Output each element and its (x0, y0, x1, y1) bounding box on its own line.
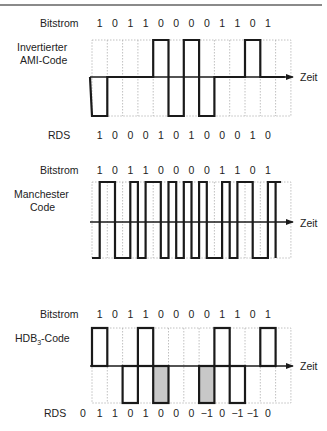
ami-bit-value: 1 (143, 17, 149, 29)
ami-rds-value: 0 (204, 129, 210, 141)
ami-bit-value: 1 (234, 17, 240, 29)
ami-rds-value: 0 (173, 129, 179, 141)
manchester-time-label: Zeit (300, 217, 318, 229)
hdb3-bit-value: 0 (189, 308, 195, 320)
ami-rds-value: 0 (234, 129, 240, 141)
hdb3-pulse (138, 328, 153, 366)
manchester-bit-value: 1 (219, 164, 225, 176)
ami-bit-value: 1 (97, 17, 103, 29)
hdb3-pulse (230, 366, 245, 403)
hdb3-panel: Bitstrom 101100001101 HDB3-Code Zeit RDS… (15, 308, 318, 419)
hdb3-pulse (214, 328, 229, 366)
hdb3-pulse (92, 328, 107, 366)
ami-bit-value: 0 (250, 17, 256, 29)
ami-bit-labels: 101100001101 (97, 17, 271, 29)
hdb3-bit-value: 0 (204, 308, 210, 320)
hdb3-pulse (260, 328, 275, 366)
hdb3-bit-value: 1 (127, 308, 133, 320)
hdb3-violation-pulse (199, 366, 214, 403)
manchester-bit-value: 0 (189, 164, 195, 176)
ami-bit-value: 0 (204, 17, 210, 29)
hdb3-bitstream-label: Bitstrom (40, 308, 79, 320)
hdb3-bit-value: 1 (219, 308, 225, 320)
ami-bit-value: 1 (265, 17, 271, 29)
ami-rds-value: 0 (265, 129, 271, 141)
hdb3-rds-value: −1 (247, 407, 259, 419)
hdb3-bit-value: 1 (143, 308, 149, 320)
hdb3-rds-value: 1 (112, 407, 118, 419)
manchester-bit-value: 0 (204, 164, 210, 176)
hdb3-violation-pulse (153, 366, 168, 403)
ami-rds-value: 0 (143, 129, 149, 141)
manchester-bitstream-label: Bitstrom (40, 164, 79, 176)
ami-panel: Bitstrom 101100001101 Invertierter AMI-C… (17, 17, 318, 141)
hdb3-rds-value: 0 (265, 407, 271, 419)
manchester-bit-value: 1 (143, 164, 149, 176)
hdb3-rds-label: RDS (44, 407, 66, 419)
ami-bitstream-label: Bitstrom (40, 17, 79, 29)
hdb3-code-label: HDB3-Code (15, 332, 70, 346)
hdb3-bit-value: 1 (234, 308, 240, 320)
ami-time-label: Zeit (300, 71, 318, 83)
ami-bit-value: 1 (219, 17, 225, 29)
ami-rds-value: 0 (219, 129, 225, 141)
manchester-bit-value: 0 (158, 164, 164, 176)
ami-rds-value: 1 (158, 129, 164, 141)
hdb3-bit-value: 0 (112, 308, 118, 320)
hdb3-rds-value: 1 (143, 407, 149, 419)
ami-rds-value: 0 (127, 129, 133, 141)
hdb3-bit-value: 0 (250, 308, 256, 320)
ami-rds-value: 1 (97, 129, 103, 141)
hdb3-rds-initial: 0 (80, 407, 86, 419)
manchester-bit-value: 1 (127, 164, 133, 176)
ami-rds-values: 100010100010 (97, 129, 271, 141)
ami-bit-value: 0 (189, 17, 195, 29)
ami-rds-value: 0 (112, 129, 118, 141)
hdb3-rds-value: 1 (97, 407, 103, 419)
hdb3-rds-value: 0 (189, 407, 195, 419)
hdb3-time-label: Zeit (300, 360, 318, 372)
ami-bit-value: 1 (127, 17, 133, 29)
ami-rds-label: RDS (48, 129, 70, 141)
hdb3-bit-value: 1 (97, 308, 103, 320)
hdb3-pulse (123, 366, 138, 403)
hdb3-rds-value: 0 (219, 407, 225, 419)
manchester-label-line1: Manchester (14, 188, 69, 200)
ami-bit-value: 0 (173, 17, 179, 29)
ami-bit-value: 0 (158, 17, 164, 29)
hdb3-bit-value: 0 (173, 308, 179, 320)
hdb3-rds-value: −1 (201, 407, 213, 419)
manchester-bit-value: 0 (173, 164, 179, 176)
hdb3-rds-value: 0 (173, 407, 179, 419)
manchester-bit-value: 0 (250, 164, 256, 176)
hdb3-rds-value: −1 (231, 407, 243, 419)
line-code-diagram: Bitstrom 101100001101 Invertierter AMI-C… (0, 0, 327, 431)
manchester-bit-labels: 101100001101 (97, 164, 271, 176)
hdb3-rds-value: 0 (127, 407, 133, 419)
ami-bit-value: 0 (112, 17, 118, 29)
hdb3-rds-value: 0 (158, 407, 164, 419)
ami-code-label-line2: AMI-Code (20, 54, 67, 66)
hdb3-bit-value: 1 (265, 308, 271, 320)
manchester-bit-value: 1 (234, 164, 240, 176)
manchester-waveform (92, 182, 281, 258)
ami-rds-value: 1 (250, 129, 256, 141)
manchester-panel: Bitstrom 101100001101 Manchester Code Ze… (14, 164, 318, 258)
manchester-label-line2: Code (30, 201, 55, 213)
ami-rds-value: 1 (189, 129, 195, 141)
ami-waveform (90, 40, 285, 116)
manchester-bit-value: 0 (112, 164, 118, 176)
manchester-bit-value: 1 (265, 164, 271, 176)
hdb3-bit-labels: 101100001101 (97, 308, 271, 320)
hdb3-rds-values: 1101000−10−1−10 (97, 407, 271, 419)
ami-code-label-line1: Invertierter (17, 41, 68, 53)
hdb3-bit-value: 0 (158, 308, 164, 320)
manchester-bit-value: 1 (97, 164, 103, 176)
